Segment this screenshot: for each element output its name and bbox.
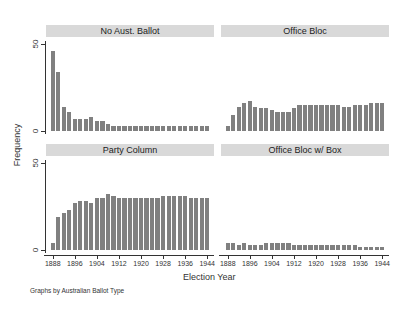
x-tick-label: 1920 (129, 260, 153, 267)
bar (231, 243, 235, 250)
x-tick (75, 255, 76, 259)
bar (183, 126, 187, 131)
bar (275, 243, 279, 250)
bar (380, 103, 384, 131)
bar (84, 201, 88, 250)
x-tick (250, 255, 251, 259)
y-axis (45, 41, 46, 134)
bar (330, 245, 334, 250)
x-tick-label: 1928 (151, 260, 175, 267)
bar (133, 126, 137, 131)
bar (292, 245, 296, 250)
bar (178, 196, 182, 250)
bar (200, 198, 204, 250)
bar (56, 72, 60, 131)
bar (226, 126, 230, 131)
bar (330, 105, 334, 131)
bar (189, 198, 193, 250)
bar (375, 247, 379, 250)
y-tick-label: 0 (32, 124, 40, 138)
bar (150, 126, 154, 131)
x-tick (119, 255, 120, 259)
bar (95, 198, 99, 250)
x-tick (97, 255, 98, 259)
x-tick-label: 1936 (348, 260, 372, 267)
y-tick-label: 0 (32, 243, 40, 257)
bar (51, 243, 55, 250)
x-tick (316, 255, 317, 259)
bar (226, 243, 230, 250)
bar (172, 126, 176, 131)
y-tick (41, 163, 45, 164)
bar (183, 196, 187, 250)
y-axis (45, 160, 46, 253)
bar (336, 105, 340, 131)
bar (178, 126, 182, 131)
y-tick (41, 131, 45, 132)
x-tick (53, 255, 54, 259)
bar (380, 247, 384, 250)
x-tick-label: 1912 (282, 260, 306, 267)
x-tick (338, 255, 339, 259)
bar (117, 198, 121, 250)
y-tick (41, 44, 45, 45)
x-tick-label: 1896 (63, 260, 87, 267)
bar (297, 105, 301, 131)
bar (89, 203, 93, 250)
bar (347, 107, 351, 131)
bar (150, 198, 154, 250)
bar (242, 103, 246, 131)
bar (325, 245, 329, 250)
bar (248, 245, 252, 250)
bar (172, 196, 176, 250)
panel-title: Office Bloc (221, 25, 389, 37)
bar (139, 126, 143, 131)
bar (133, 198, 137, 250)
x-tick (382, 255, 383, 259)
bar (122, 198, 126, 250)
bar (67, 112, 71, 131)
x-tick (207, 255, 208, 259)
x-axis-title: Election Year (183, 272, 236, 282)
bar (259, 108, 263, 131)
bar (73, 203, 77, 250)
bar (364, 105, 368, 131)
bar (286, 112, 290, 131)
bar (253, 107, 257, 131)
bar (264, 243, 268, 250)
x-axis (44, 255, 214, 256)
bar (237, 107, 241, 131)
bar (342, 107, 346, 131)
bar (62, 213, 66, 250)
x-tick (272, 255, 273, 259)
bar (155, 126, 159, 131)
bar (78, 201, 82, 250)
bar (73, 119, 77, 131)
bar (111, 126, 115, 131)
bar (194, 126, 198, 131)
bar (364, 247, 368, 250)
bar (292, 108, 296, 131)
bar (369, 103, 373, 131)
bar (161, 196, 165, 250)
x-tick-label: 1888 (41, 260, 65, 267)
bar (117, 126, 121, 131)
panel-title: No Aust. Ballot (46, 25, 214, 37)
bar (259, 245, 263, 250)
bar (128, 198, 132, 250)
bar (281, 112, 285, 131)
bar (242, 243, 246, 250)
x-tick-label: 1904 (260, 260, 284, 267)
bar (144, 126, 148, 131)
bar (253, 245, 257, 250)
bar (319, 105, 323, 131)
bar (51, 51, 55, 131)
bar (100, 198, 104, 250)
bar (308, 245, 312, 250)
x-tick (360, 255, 361, 259)
bar (270, 243, 274, 250)
x-tick-label: 1896 (238, 260, 262, 267)
bar (248, 101, 252, 131)
y-tick (41, 250, 45, 251)
bar (342, 245, 346, 250)
